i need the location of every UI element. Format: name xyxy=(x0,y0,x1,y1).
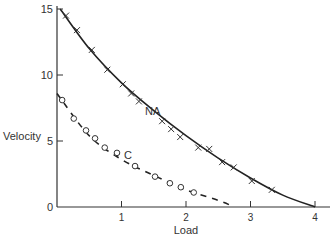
y-tick-label: 15 xyxy=(41,3,53,15)
series-na xyxy=(60,9,315,207)
x-ticks: 1234 xyxy=(119,201,319,223)
na-cross-marker xyxy=(206,146,212,152)
c-circle-marker xyxy=(92,136,98,142)
series-label-c: C xyxy=(124,149,132,161)
c-circle-marker xyxy=(71,116,77,122)
x-tick-label: 4 xyxy=(312,212,318,223)
na-cross-marker xyxy=(120,81,126,87)
axes xyxy=(57,6,330,207)
x-axis-label: Load xyxy=(174,224,198,236)
c-circle-marker xyxy=(83,128,89,134)
y-tick-label: 10 xyxy=(41,69,53,81)
na-cross-marker xyxy=(168,126,174,132)
y-axis-label: Velocity xyxy=(3,130,41,142)
series-label-na: NA xyxy=(145,105,161,117)
y-ticks: 051015 xyxy=(41,3,63,213)
c-circle-marker xyxy=(152,174,158,180)
na-curve xyxy=(60,9,315,207)
c-circle-marker xyxy=(59,97,65,103)
velocity-load-chart: 051015 1234 Velocity Load NA C xyxy=(0,0,335,240)
y-tick-label: 0 xyxy=(47,201,53,213)
c-circle-marker xyxy=(102,145,108,151)
na-cross-marker xyxy=(159,118,165,124)
na-cross-marker xyxy=(269,187,275,193)
c-circle-marker xyxy=(114,150,120,156)
na-cross-marker xyxy=(177,134,183,140)
x-tick-label: 2 xyxy=(183,212,189,223)
y-tick-label: 5 xyxy=(47,135,53,147)
c-circle-marker xyxy=(132,163,138,169)
c-circle-marker xyxy=(178,184,184,190)
c-circle-marker xyxy=(191,190,197,196)
c-circle-marker xyxy=(167,180,173,186)
x-tick-label: 1 xyxy=(119,212,125,223)
x-tick-label: 3 xyxy=(248,212,254,223)
